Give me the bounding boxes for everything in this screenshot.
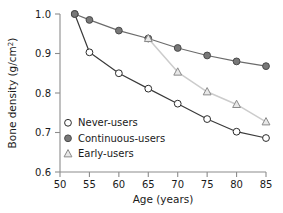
data-point-marker [263, 135, 270, 142]
y-tick-label: 0.6 [35, 167, 51, 178]
y-axis-title-main: Bone density (g [6, 66, 18, 149]
y-tick-label: 0.9 [35, 48, 51, 59]
svg-text:Bone density (g/cm2): Bone density (g/cm2) [6, 38, 18, 149]
data-point-marker [204, 52, 211, 59]
series-line-early-users [148, 38, 266, 121]
x-tick-label: 70 [171, 179, 184, 190]
x-tick-label: 50 [54, 179, 67, 190]
data-point-marker [263, 63, 270, 70]
data-point-marker [115, 27, 122, 34]
data-point-marker [203, 88, 211, 95]
data-point-marker [71, 11, 78, 18]
legend-marker-filled-circle [65, 135, 72, 142]
bone-density-chart-figure: 0.60.70.80.91.0 5055606570758085 Bone de… [0, 0, 283, 213]
legend-marker-open-circle [65, 119, 72, 126]
data-point-marker [174, 100, 181, 107]
data-point-marker [115, 70, 122, 77]
chart-plot-area: 0.60.70.80.91.0 5055606570758085 Bone de… [0, 0, 283, 213]
data-point-marker [204, 116, 211, 123]
legend-label: Early-users [78, 148, 134, 159]
chart-legend: Never-usersContinuous-usersEarly-users [64, 117, 165, 159]
data-point-marker [262, 118, 270, 125]
x-tick-label: 65 [142, 179, 155, 190]
x-tick-label: 75 [201, 179, 214, 190]
data-point-marker [174, 45, 181, 52]
data-point-marker [233, 128, 240, 135]
y-tick-label: 0.8 [35, 88, 51, 99]
y-axis-title: Bone density (g/cm2) [6, 38, 18, 149]
x-tick-label: 85 [260, 179, 273, 190]
x-axis-title: Age (years) [133, 193, 194, 205]
x-tick-label: 80 [230, 179, 243, 190]
x-tick-label: 60 [112, 179, 125, 190]
series-markers-early-users [144, 34, 270, 125]
legend-marker-open-triangle [64, 150, 72, 157]
x-axis-ticks: 5055606570758085 [54, 172, 273, 190]
y-tick-label: 0.7 [35, 127, 51, 138]
data-point-marker [145, 85, 152, 92]
data-point-marker [233, 58, 240, 65]
data-point-marker [86, 17, 93, 24]
y-tick-label: 1.0 [35, 9, 51, 20]
y-axis-title-unit: cm [6, 46, 18, 62]
legend-label: Continuous-users [78, 133, 165, 144]
legend-label: Never-users [78, 117, 138, 128]
x-tick-label: 55 [83, 179, 96, 190]
y-axis-title-close: ) [6, 38, 18, 42]
y-axis-ticks: 0.60.70.80.91.0 [35, 9, 60, 178]
data-point-marker [86, 49, 93, 56]
